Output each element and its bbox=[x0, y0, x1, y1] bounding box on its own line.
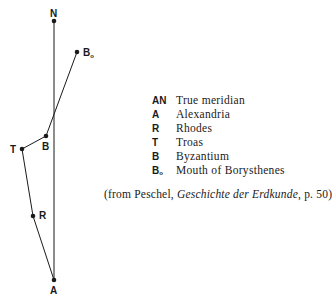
point-R bbox=[31, 214, 36, 219]
point-N bbox=[52, 19, 57, 24]
legend: AN True meridian A Alexandria R Rhodes T… bbox=[152, 93, 285, 177]
legend-text: Rhodes bbox=[176, 122, 212, 134]
legend-text: Troas bbox=[176, 136, 203, 148]
caption-prefix: (from Peschel, bbox=[104, 188, 177, 200]
legend-key: B bbox=[152, 151, 176, 162]
caption-suffix: , p. 50) bbox=[298, 188, 332, 200]
line-B-B0 bbox=[46, 52, 77, 136]
caption-book-title: Geschichte der Erdkunde bbox=[177, 188, 298, 200]
point-B0 bbox=[75, 50, 80, 55]
point-label-R: R bbox=[39, 210, 47, 221]
legend-key: AN bbox=[152, 95, 176, 106]
point-label-T: T bbox=[10, 144, 16, 155]
point-T bbox=[20, 147, 25, 152]
legend-key: Bo bbox=[152, 165, 176, 176]
legend-key: T bbox=[152, 137, 176, 148]
point-label-B0: Bo bbox=[83, 47, 94, 59]
legend-text: Mouth of Borysthenes bbox=[176, 164, 285, 176]
legend-text: True meridian bbox=[176, 94, 245, 106]
line-R-T bbox=[22, 149, 33, 216]
legend-item-borysthenes: Bo Mouth of Borysthenes bbox=[152, 163, 285, 177]
point-label-A: A bbox=[50, 285, 57, 296]
point-A bbox=[52, 278, 57, 283]
legend-item-alexandria: A Alexandria bbox=[152, 107, 285, 121]
point-B bbox=[44, 134, 49, 139]
legend-key: A bbox=[152, 109, 176, 120]
route-lines bbox=[22, 21, 77, 280]
point-label-N: N bbox=[50, 8, 57, 19]
legend-item-rhodes: R Rhodes bbox=[152, 121, 285, 135]
legend-item-true-meridian: AN True meridian bbox=[152, 93, 285, 107]
legend-item-byzantium: B Byzantium bbox=[152, 149, 285, 163]
line-A-R bbox=[33, 216, 54, 280]
legend-text: Byzantium bbox=[176, 150, 229, 162]
legend-text: Alexandria bbox=[176, 108, 230, 120]
legend-item-troas: T Troas bbox=[152, 135, 285, 149]
source-caption: (from Peschel, Geschichte der Erdkunde, … bbox=[104, 188, 332, 200]
legend-key: R bbox=[152, 123, 176, 134]
point-label-B: B bbox=[42, 141, 49, 152]
